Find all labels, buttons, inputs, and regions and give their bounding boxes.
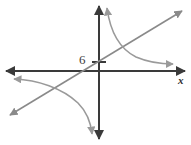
x-axis-label: x	[178, 75, 184, 86]
hyperbola-branch-lower-left-curve	[14, 79, 92, 134]
graph-canvas	[0, 0, 191, 145]
y-axis-tick-label-6: 6	[79, 53, 86, 66]
math-graph-figure: 6 x	[0, 0, 191, 145]
